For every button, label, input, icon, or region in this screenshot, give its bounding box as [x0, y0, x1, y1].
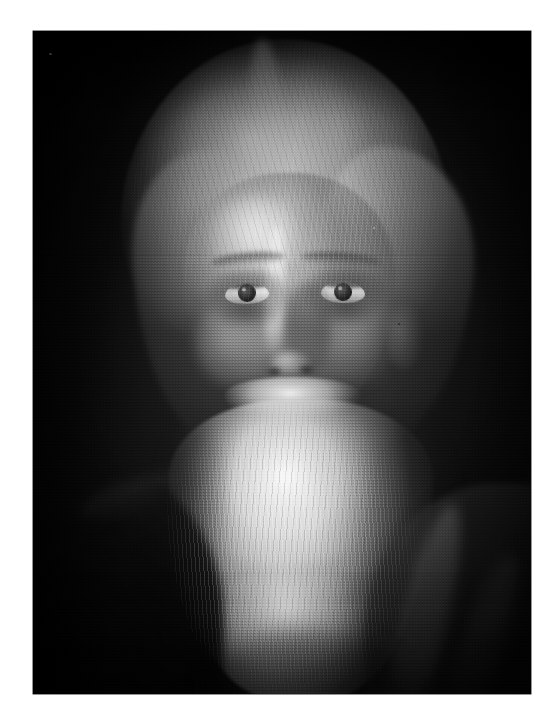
dust-speck — [49, 53, 52, 55]
portrait-photograph — [33, 31, 531, 694]
dust-speck — [398, 323, 400, 325]
backdrop-shadow-top — [33, 31, 531, 694]
dust-speck — [373, 227, 375, 229]
page-canvas — [0, 0, 560, 719]
